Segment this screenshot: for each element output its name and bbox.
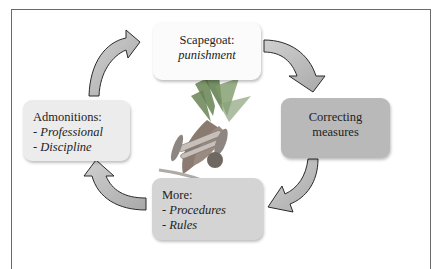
node-correcting-title2: measures: [281, 125, 390, 140]
node-admonitions: Admonitions: - Professional - Discipline: [23, 100, 130, 161]
node-correcting-measures: Correcting measures: [281, 98, 390, 158]
node-scapegoat: Scapegoat: punishment: [153, 22, 261, 80]
node-more-item-rules: - Rules: [162, 218, 263, 233]
node-admonitions-item-discipline: - Discipline: [33, 140, 130, 155]
node-correcting-title: Correcting: [281, 110, 390, 125]
node-admonitions-title: Admonitions:: [33, 110, 130, 125]
node-more-item-procedures: - Procedures: [162, 203, 263, 218]
arrow-more-to-admonitions-icon: [84, 160, 146, 210]
node-scapegoat-title: Scapegoat:: [153, 33, 261, 48]
node-more: More: - Procedures - Rules: [152, 178, 263, 240]
carrot-bundle-illustration: [155, 76, 255, 180]
node-scapegoat-subtitle: punishment: [153, 48, 261, 63]
arrow-correcting-to-more-icon: [268, 159, 318, 212]
arrow-scapegoat-to-correcting-icon: [264, 40, 325, 92]
node-admonitions-item-professional: - Professional: [33, 125, 130, 140]
node-more-title: More:: [162, 188, 263, 203]
arrow-admonitions-to-scapegoat-icon: [89, 30, 140, 96]
